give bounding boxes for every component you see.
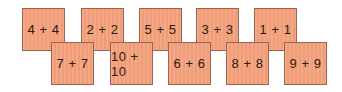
card-10-plus-10[interactable]: 10 + 10: [110, 42, 153, 85]
card-label: 8 + 8: [232, 56, 264, 71]
card-label: 9 + 9: [290, 56, 322, 71]
card-label: 1 + 1: [260, 22, 292, 37]
card-label: 10 + 10: [111, 49, 152, 79]
card-label: 3 + 3: [202, 22, 234, 37]
card-9-plus-9[interactable]: 9 + 9: [284, 42, 327, 85]
card-label: 2 + 2: [87, 22, 119, 37]
card-label: 6 + 6: [174, 56, 206, 71]
card-label: 7 + 7: [57, 56, 89, 71]
card-label: 4 + 4: [28, 22, 60, 37]
card-8-plus-8[interactable]: 8 + 8: [226, 42, 269, 85]
card-label: 5 + 5: [145, 22, 177, 37]
card-7-plus-7[interactable]: 7 + 7: [51, 42, 94, 85]
card-6-plus-6[interactable]: 6 + 6: [168, 42, 211, 85]
